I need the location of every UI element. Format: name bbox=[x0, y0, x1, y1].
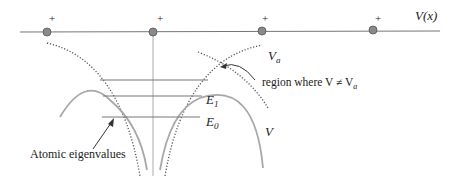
diagram-canvas: + + + + V(x) E1 E0 Va V region where V ≠… bbox=[0, 0, 456, 179]
atom-dot bbox=[258, 27, 266, 35]
potential-label: V(x) bbox=[415, 8, 437, 23]
E0-label: E0 bbox=[205, 114, 219, 131]
eigenvalues-arrow-line bbox=[93, 123, 111, 149]
atomic-eigenvalues-label: Atomic eigenvalues bbox=[30, 147, 126, 161]
region-label: region where V ≠ Va bbox=[262, 76, 357, 91]
atom-dot bbox=[149, 28, 157, 36]
charge-plus: + bbox=[49, 12, 55, 24]
atom-dot bbox=[369, 26, 377, 34]
charge-plus: + bbox=[375, 12, 381, 24]
Va-label: Va bbox=[268, 48, 281, 65]
V-label: V bbox=[265, 124, 275, 139]
charge-plus: + bbox=[262, 12, 268, 24]
atom-dot bbox=[43, 28, 51, 36]
charge-plus: + bbox=[157, 12, 163, 24]
